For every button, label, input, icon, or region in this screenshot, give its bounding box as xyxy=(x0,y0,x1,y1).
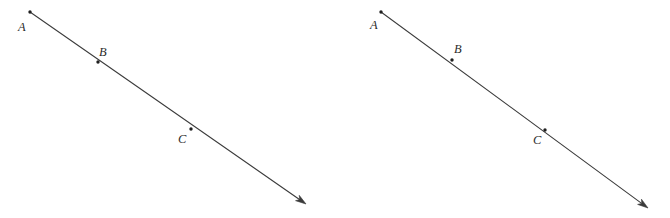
point-marker-c-right xyxy=(543,128,546,131)
ray-diagram-svg: ABCABC xyxy=(0,0,670,218)
point-label-a-left: A xyxy=(17,20,26,34)
point-marker-a-right xyxy=(379,10,382,13)
point-marker-c-left xyxy=(189,127,192,130)
point-label-b-right: B xyxy=(454,42,462,56)
right-ray-diagram: ABC xyxy=(369,10,648,208)
point-marker-b-left xyxy=(96,60,99,63)
left-ray-diagram: ABC xyxy=(17,10,306,204)
point-marker-a-left xyxy=(28,10,31,13)
point-marker-b-right xyxy=(450,58,453,61)
ray-arrowhead-left xyxy=(296,195,306,204)
point-label-c-left: C xyxy=(178,132,187,146)
point-label-a-right: A xyxy=(369,18,378,32)
ray-arrowhead-right xyxy=(638,199,648,208)
point-label-b-left: B xyxy=(99,45,107,59)
ray-segment-left xyxy=(30,12,299,199)
point-label-c-right: C xyxy=(533,133,542,147)
figure-canvas: ABCABC xyxy=(0,0,670,218)
ray-segment-right xyxy=(381,12,642,203)
